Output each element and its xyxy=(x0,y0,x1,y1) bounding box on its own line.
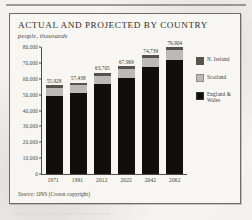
y-axis-tick-label: 70,000 xyxy=(23,60,38,66)
y-axis-tick xyxy=(39,94,42,95)
bar-group: 55,92857,43863,70567,96974,73979,904 xyxy=(42,47,187,174)
bar-value-label: 67,969 xyxy=(119,59,134,65)
source-text: ONS (Crown copyright) xyxy=(36,191,90,197)
bar-value-label: 74,739 xyxy=(143,48,158,54)
legend-swatch-icon-england-wales xyxy=(196,92,204,100)
chart-legend: N. Ireland Scotland England & Wales xyxy=(196,56,240,112)
y-axis-tick-label: 60,000 xyxy=(23,76,38,82)
x-axis-labels: 197119912012202220422062 xyxy=(41,177,187,187)
x-axis-tick-label: 1971 xyxy=(45,177,62,187)
x-axis-tick-label: 1991 xyxy=(69,177,86,187)
x-axis-tick-label: 2012 xyxy=(93,177,110,187)
bar-segment xyxy=(46,96,63,174)
y-axis-tick xyxy=(39,174,42,175)
y-axis-tick-label: 10,000 xyxy=(23,155,38,161)
y-axis-tick xyxy=(39,47,42,48)
legend-item-scotland: Scotland xyxy=(196,74,240,83)
bar-segment xyxy=(166,50,183,60)
bar-value-label: 55,928 xyxy=(47,78,62,84)
chart-figure: ACTUAL AND PROJECTED BY COUNTRY people, … xyxy=(9,13,241,204)
chart-title: ACTUAL AND PROJECTED BY COUNTRY xyxy=(18,20,208,30)
bar-segment xyxy=(94,76,111,84)
y-axis-tick xyxy=(39,126,42,127)
bar-value-label: 63,705 xyxy=(95,65,110,71)
bar-segment xyxy=(166,60,183,174)
bar-column[interactable]: 74,739 xyxy=(142,47,159,174)
x-axis-line xyxy=(41,174,187,175)
legend-label-scotland: Scotland xyxy=(207,74,226,80)
bar-value-label: 79,904 xyxy=(167,40,182,46)
x-axis-tick-label: 2042 xyxy=(142,177,159,187)
source-prefix: Source: xyxy=(18,191,35,197)
bar-column[interactable]: 67,969 xyxy=(118,47,135,174)
bar-segment xyxy=(46,88,63,96)
background-ghost-text-bottom: adipiscing elit sed do eiusmod tempor in… xyxy=(14,211,111,216)
y-axis-tick xyxy=(39,110,42,111)
bar-segment xyxy=(70,93,87,174)
bar-column[interactable]: 63,705 xyxy=(94,47,111,174)
y-axis-tick-label: 20,000 xyxy=(23,139,38,145)
plot-area: 010,00020,00030,00040,00050,00060,00070,… xyxy=(41,47,187,175)
y-axis-tick xyxy=(39,142,42,143)
y-axis-tick-label: 0 xyxy=(35,171,38,177)
bar-segment xyxy=(142,67,159,174)
y-axis-tick xyxy=(39,158,42,159)
bar-column[interactable]: 55,928 xyxy=(46,47,63,174)
y-axis-tick-label: 40,000 xyxy=(23,108,38,114)
chart-source-note: Source: ONS (Crown copyright) xyxy=(18,191,90,197)
chart-subtitle: people, thousands xyxy=(18,32,68,39)
legend-item-n-ireland: N. Ireland xyxy=(196,56,240,65)
page-top-rule xyxy=(6,4,246,6)
bar-segment xyxy=(70,85,87,93)
legend-swatch-icon-scotland xyxy=(196,74,204,82)
y-axis-tick xyxy=(39,62,42,63)
y-axis-tick-label: 80,000 xyxy=(23,44,38,50)
y-axis-tick-label: 30,000 xyxy=(23,123,38,129)
legend-swatch-icon-n-ireland xyxy=(196,57,204,65)
legend-label-n-ireland: N. Ireland xyxy=(207,56,229,62)
bar-segment xyxy=(118,78,135,174)
bar-segment xyxy=(94,84,111,174)
x-axis-tick-label: 2062 xyxy=(166,177,183,187)
y-axis-tick-label: 50,000 xyxy=(23,92,38,98)
y-axis-tick xyxy=(39,78,42,79)
legend-label-england-wales: England & Wales xyxy=(207,91,240,103)
bar-segment xyxy=(142,58,159,67)
x-axis-tick-label: 2022 xyxy=(118,177,135,187)
bar-value-label: 57,438 xyxy=(71,75,86,81)
legend-item-england-wales: England & Wales xyxy=(196,91,240,103)
bar-column[interactable]: 57,438 xyxy=(70,47,87,174)
bar-segment xyxy=(118,69,135,78)
bar-column[interactable]: 79,904 xyxy=(166,47,183,174)
